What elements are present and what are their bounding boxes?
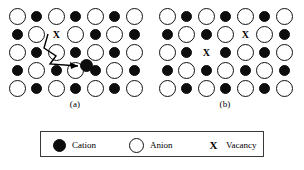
- lattice-site-cation: [162, 65, 173, 76]
- lattice-site-cation: [240, 65, 251, 76]
- lattice-site-cation: [70, 47, 81, 58]
- lattice-site-cation: [90, 29, 101, 40]
- lattice-site-cation: [162, 29, 173, 40]
- lattice-site-anion: [276, 44, 293, 61]
- vacancy-x-icon: X: [207, 139, 220, 151]
- lattice-site-vacancy: X: [198, 44, 215, 61]
- lattice-site-anion: [256, 62, 273, 79]
- lattice-site-anion: [87, 80, 104, 97]
- filled-circle-icon: [53, 139, 66, 152]
- lattice-site-cation: [109, 47, 120, 58]
- lattice-site-cation: [220, 11, 231, 22]
- lattice-site-anion: [126, 8, 143, 25]
- lattice-site-anion: [87, 44, 104, 61]
- lattice-panel-b: XX: [156, 4, 294, 98]
- lattice-site-anion: [256, 26, 273, 43]
- lattice-site-cation: [31, 83, 42, 94]
- lattice-grid-b: XX: [156, 4, 294, 98]
- legend-label-cation: Cation: [72, 140, 96, 150]
- lattice-site-anion: [9, 44, 26, 61]
- open-circle-icon: [129, 138, 144, 153]
- lattice-site-cation: [201, 29, 212, 40]
- lattice-site-cation: [220, 47, 231, 58]
- lattice-site-anion: [106, 26, 123, 43]
- lattice-site-anion: [28, 62, 45, 79]
- lattice-site-cation: [259, 11, 270, 22]
- legend-entry-cation: Cation: [53, 132, 96, 158]
- lattice-site-anion: [198, 8, 215, 25]
- lattice-site-anion: [217, 62, 234, 79]
- lattice-site-anion: [126, 80, 143, 97]
- lattice-site-anion: [217, 26, 234, 43]
- legend-label-anion: Anion: [150, 140, 173, 150]
- defect-figure: X (a) XX (b) Cation Anion X Vacancy: [0, 0, 304, 170]
- legend-entry-vacancy: X Vacancy: [207, 132, 256, 158]
- lattice-site-anion: [9, 80, 26, 97]
- lattice-site-anion: [67, 26, 84, 43]
- lattice-site-vacancy: X: [237, 26, 254, 43]
- lattice-site-anion: [159, 80, 176, 97]
- lattice-site-anion: [48, 44, 65, 61]
- lattice-site-vacancy: X: [48, 26, 65, 43]
- lattice-site-anion: [198, 80, 215, 97]
- lattice-site-cation: [129, 29, 140, 40]
- legend-label-vacancy: Vacancy: [226, 140, 256, 150]
- lattice-site-anion: [87, 8, 104, 25]
- legend-entry-anion: Anion: [129, 132, 173, 158]
- subcaption-a: (a): [6, 99, 144, 109]
- subcaption-b: (b): [156, 99, 294, 109]
- lattice-panel-a: X: [6, 4, 144, 98]
- lattice-site-cation: [51, 65, 62, 76]
- lattice-site-cation: [259, 47, 270, 58]
- lattice-site-cation: [109, 83, 120, 94]
- lattice-site-anion: [48, 80, 65, 97]
- lattice-site-anion: [28, 26, 45, 43]
- lattice-site-cation: [181, 47, 192, 58]
- lattice-site-cation: [12, 65, 23, 76]
- interstitial-cation: [80, 59, 93, 72]
- lattice-site-cation: [31, 11, 42, 22]
- lattice-site-anion: [237, 80, 254, 97]
- lattice-site-anion: [126, 44, 143, 61]
- lattice-site-anion: [106, 62, 123, 79]
- lattice-site-cation: [129, 65, 140, 76]
- lattice-site-anion: [276, 80, 293, 97]
- lattice-site-anion: [159, 8, 176, 25]
- lattice-site-cation: [12, 29, 23, 40]
- lattice-site-anion: [48, 8, 65, 25]
- lattice-site-cation: [259, 83, 270, 94]
- lattice-site-cation: [279, 29, 290, 40]
- lattice-site-cation: [181, 83, 192, 94]
- lattice-grid-a: X: [6, 4, 144, 98]
- lattice-site-cation: [109, 11, 120, 22]
- lattice-site-anion: [159, 44, 176, 61]
- lattice-site-anion: [178, 26, 195, 43]
- lattice-site-anion: [9, 8, 26, 25]
- lattice-site-cation: [31, 47, 42, 58]
- lattice-site-cation: [279, 65, 290, 76]
- legend: Cation Anion X Vacancy: [40, 131, 264, 157]
- lattice-site-cation: [220, 83, 231, 94]
- lattice-site-cation: [181, 11, 192, 22]
- lattice-site-cation: [201, 65, 212, 76]
- lattice-site-anion: [237, 8, 254, 25]
- lattice-site-cation: [70, 11, 81, 22]
- lattice-site-anion: [237, 44, 254, 61]
- lattice-site-anion: [276, 8, 293, 25]
- lattice-site-anion: [178, 62, 195, 79]
- lattice-site-cation: [70, 83, 81, 94]
